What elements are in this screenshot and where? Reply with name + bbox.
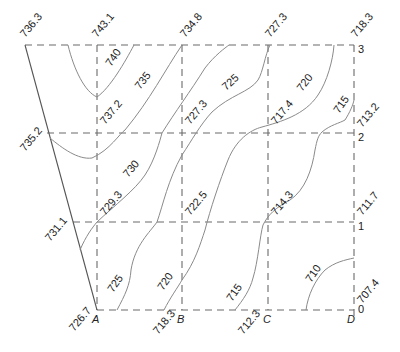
elev-A3: 743.1 [89,10,116,39]
contour-grid-diagram: 736.3 743.1 734.8 727.3 718.3 735.2 737.… [0,0,400,352]
elev-C0: 712.3 [235,307,262,336]
column-label-B: B [177,313,184,325]
row-label-1: 1 [358,220,364,232]
elev-D2: 713.2 [354,100,381,129]
left-boundary-line [25,45,97,310]
contour-label-720-upper: 720 [294,71,315,93]
elev-outer-mid-left: 735.2 [17,124,44,153]
row-label-3: 3 [358,43,364,55]
elev-B2: 727.3 [182,97,209,126]
elev-C1: 714.3 [268,188,295,217]
column-label-A: A [91,313,99,325]
contour-label-725-upper: 725 [219,71,241,92]
row-label-2: 2 [358,131,364,143]
contour-715 [235,100,354,310]
elev-B1: 722.5 [182,188,209,217]
elev-D3: 718.3 [348,10,375,39]
contour-label-730: 730 [120,158,141,180]
row-label-0: 0 [358,303,364,315]
column-label-D: D [347,313,355,325]
contour-label-715-upper: 715 [331,93,351,115]
column-labels: A B C D [91,313,355,325]
row-labels: 3 2 1 0 [358,43,364,315]
elev-B0: 718.3 [150,307,177,336]
elev-A0: 726.7 [66,304,93,333]
elev-D1: 711.7 [354,189,380,217]
contour-label-710: 710 [303,262,323,284]
contour-label-740: 740 [103,46,123,68]
contour-label-720-lower: 720 [155,270,175,292]
elev-C2: 717.4 [268,97,295,126]
elev-A1: 729.3 [97,188,124,217]
column-label-C: C [263,313,271,325]
elev-C3: 727.3 [262,10,289,39]
elev-D0: 707.4 [354,276,381,305]
elev-B3: 734.8 [177,10,204,39]
elev-A2: 737.2 [97,97,124,126]
contour-labels: 740 735 730 725 725 720 720 715 715 710 [103,46,351,303]
contour-740 [68,45,134,97]
contour-label-715-lower: 715 [224,281,244,303]
elev-outer-lower-left: 731.1 [42,214,69,243]
contour-730 [80,45,229,250]
contour-label-725-lower: 725 [105,272,125,294]
contour-label-735: 735 [132,69,153,91]
elev-outer-top-left: 736.3 [17,10,44,39]
